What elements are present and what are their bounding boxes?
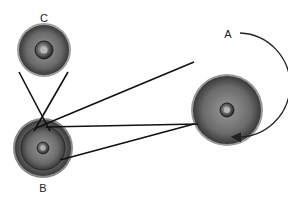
label-b: B: [39, 182, 46, 194]
belt-ba-lower: [60, 124, 194, 160]
label-c: C: [40, 12, 48, 24]
pulley-c: [17, 23, 71, 77]
belt-ba-bottom: [46, 124, 198, 127]
pulley-diagram: C A B: [0, 0, 288, 203]
label-a: A: [224, 28, 232, 40]
